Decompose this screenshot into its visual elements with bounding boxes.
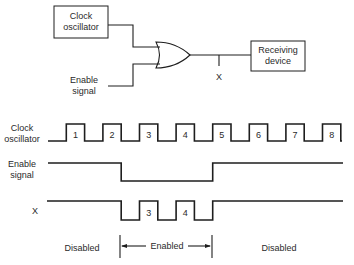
clock-pulse-number: 6 <box>256 130 261 140</box>
clock-box-label-2: oscillator <box>63 22 99 32</box>
x-waveform <box>47 201 343 220</box>
region-enabled: Enabled <box>150 241 183 251</box>
clock-pulse-number: 8 <box>329 130 334 140</box>
receiver-label-2: device <box>265 56 291 66</box>
clock-box-label-1: Clock <box>70 11 93 21</box>
clock-wire <box>108 25 160 47</box>
clock-waveform <box>48 124 342 141</box>
enable-wire <box>108 64 160 86</box>
enable-label-2: signal <box>72 86 96 96</box>
region-disabled-right: Disabled <box>261 243 296 253</box>
clock-pulse-number: 4 <box>183 130 188 140</box>
clock-pulse-number: 1 <box>73 130 78 140</box>
clock-pulse-number: 2 <box>109 130 114 140</box>
enable-trace-label-1: Enable <box>8 159 36 169</box>
clock-pulse-number: 3 <box>146 130 151 140</box>
receiver-label-1: Receiving <box>258 45 298 55</box>
arrowhead-right-icon <box>205 244 211 248</box>
region-disabled-left: Disabled <box>64 243 99 253</box>
timing-diagram: Clock oscillator 12345678 Enable signal … <box>4 123 343 258</box>
x-pulse-number: 4 <box>183 208 188 218</box>
or-gate-symbol <box>156 42 190 68</box>
clock-pulse-number: 7 <box>293 130 298 140</box>
clock-trace-label-2: oscillator <box>4 134 40 144</box>
x-pulse-number: 3 <box>146 208 151 218</box>
enable-waveform <box>48 163 343 181</box>
arrowhead-left-icon <box>121 244 127 248</box>
x-trace-label: X <box>32 206 38 216</box>
clock-trace-label-1: Clock <box>11 123 34 133</box>
clock-pulse-number: 5 <box>219 130 224 140</box>
circuit-schematic: Clock oscillator Enable signal X Receivi… <box>54 6 305 96</box>
enable-trace-label-2: signal <box>10 170 34 180</box>
enable-label-1: Enable <box>70 75 98 85</box>
logic-timing-diagram: Clock oscillator Enable signal X Receivi… <box>0 0 354 265</box>
node-x-label: X <box>216 72 222 82</box>
